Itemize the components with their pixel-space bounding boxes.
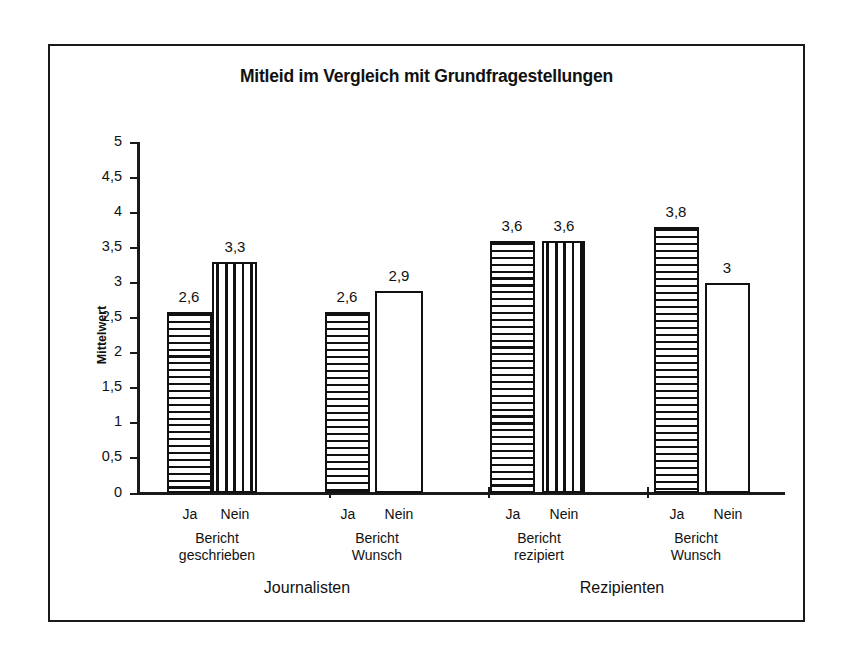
y-tick-4.5 — [130, 177, 139, 179]
y-tick-1.5 — [130, 387, 139, 389]
y-tick-label-4.5: 4,5 — [76, 169, 122, 184]
x-subgroup-label: Bericht geschrieben — [152, 530, 282, 564]
x-subgroup-label: Bericht Wunsch — [312, 530, 442, 564]
bar-journalisten-wunsch-ja[interactable] — [325, 312, 370, 494]
bar-pattern-horizontal-stripes — [169, 314, 210, 492]
bar-value-label: 3,8 — [646, 204, 706, 219]
x-subgroup-label: Bericht Wunsch — [631, 530, 761, 564]
bar-value-label: 3 — [697, 260, 757, 275]
bar-pattern-cross-hatch — [327, 314, 368, 492]
y-tick-0.5 — [130, 457, 139, 459]
y-tick-0 — [130, 493, 139, 495]
x-group-label-journalisten: Journalisten — [227, 580, 387, 596]
y-tick-4 — [130, 212, 139, 214]
bar-value-label: 3,3 — [205, 239, 265, 254]
y-axis-title: Mittelwert — [95, 275, 109, 395]
x-subgroup-label: Bericht rezipiert — [474, 530, 604, 564]
bar-rezipienten-wunsch-ja[interactable] — [654, 227, 699, 494]
bar-rezipienten-rezipiert-nein[interactable] — [542, 241, 585, 494]
y-tick-3 — [130, 282, 139, 284]
y-tick-label-0.5: 0,5 — [76, 449, 122, 464]
bar-rezipienten-wunsch-nein[interactable] — [705, 283, 750, 494]
x-category-label: Nein — [369, 507, 429, 521]
bar-journalisten-geschrieben-ja[interactable] — [167, 312, 212, 494]
y-tick-label-3.5: 3,5 — [76, 239, 122, 254]
y-tick-label-1.5: 1,5 — [76, 379, 122, 394]
bar-value-label: 3,6 — [534, 218, 594, 233]
chart-frame: Mitleid im Vergleich mit Grundfragestell… — [48, 44, 805, 622]
y-tick-label-1: 1 — [76, 414, 122, 429]
y-tick-label-4: 4 — [76, 204, 122, 219]
bar-pattern-vertical-stripes — [544, 243, 583, 492]
x-category-label: Nein — [698, 507, 758, 521]
bar-journalisten-wunsch-nein[interactable] — [375, 291, 423, 494]
bar-pattern-solid-white — [707, 285, 748, 492]
y-tick-label-5: 5 — [76, 134, 122, 149]
bar-pattern-cross-hatch — [656, 229, 697, 492]
x-group-label-rezipienten: Rezipienten — [542, 580, 702, 596]
bar-value-label: 2,6 — [317, 289, 377, 304]
y-tick-label-3: 3 — [76, 274, 122, 289]
bar-value-label: 3,6 — [482, 218, 542, 233]
plot-area: Mittelwert 5 4,5 4 3,5 3 2,5 2 1,5 1 0,5… — [50, 46, 807, 624]
bar-value-label: 2,6 — [159, 289, 219, 304]
y-tick-label-2.5: 2,5 — [76, 309, 122, 324]
x-category-label: Nein — [534, 507, 594, 521]
y-tick-5 — [130, 142, 139, 144]
y-tick-2 — [130, 352, 139, 354]
x-category-label: Nein — [205, 507, 265, 521]
bar-rezipienten-rezipiert-ja[interactable] — [490, 241, 535, 494]
y-tick-label-2: 2 — [76, 344, 122, 359]
bar-value-label: 2,9 — [369, 268, 429, 283]
y-tick-3.5 — [130, 247, 139, 249]
bar-pattern-vertical-stripes — [214, 264, 255, 492]
bar-pattern-horizontal-stripes — [492, 243, 533, 492]
y-tick-label-0: 0 — [76, 485, 122, 500]
y-tick-1 — [130, 422, 139, 424]
y-tick-2.5 — [130, 317, 139, 319]
x-separator-tick-3 — [647, 487, 649, 498]
bar-pattern-solid-white — [377, 293, 421, 492]
